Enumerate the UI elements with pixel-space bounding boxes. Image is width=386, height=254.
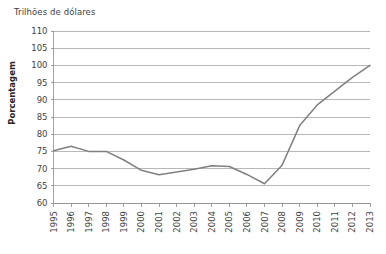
y-tick-label: 105: [31, 43, 47, 53]
x-tick-label: 2000: [136, 211, 146, 233]
y-tick-label: 80: [37, 129, 48, 139]
x-tick-label: 2002: [172, 211, 182, 233]
y-tick-label: 110: [31, 26, 47, 36]
x-tick-label: 2013: [365, 211, 375, 233]
data-series-line: [54, 65, 371, 183]
y-tick-label: 70: [37, 164, 48, 174]
x-tick-label: 2008: [277, 211, 287, 233]
y-tick-label: 60: [37, 198, 48, 208]
x-tick-label: 2007: [260, 211, 270, 233]
y-tick-marks: [51, 31, 54, 203]
x-tick-marks: [54, 203, 371, 207]
x-tick-label: 2001: [154, 211, 164, 233]
y-tick-label: 100: [31, 60, 47, 70]
gridlines: [54, 31, 371, 203]
y-tick-label: 65: [37, 181, 48, 191]
y-tick-label: 75: [37, 146, 48, 156]
x-tick-label: 1996: [66, 211, 76, 233]
x-tick-label: 2003: [189, 211, 199, 233]
x-tick-label: 2012: [347, 211, 357, 233]
x-tick-label: 2006: [242, 211, 252, 233]
y-tick-label: 85: [37, 112, 48, 122]
x-tick-labels: 1995199619971998199920002001200220032004…: [49, 211, 376, 233]
chart-container: Trilhões de dólares Porcentagem 11010510…: [0, 0, 386, 254]
x-tick-label: 1995: [49, 211, 59, 233]
x-tick-label: 2005: [224, 211, 234, 233]
x-tick-label: 2009: [295, 211, 305, 233]
x-tick-label: 2004: [207, 211, 217, 233]
x-tick-label: 2010: [312, 211, 322, 233]
x-tick-label: 1999: [119, 211, 129, 233]
plot-area: 1101051009590858075706560 19951996199719…: [0, 0, 386, 254]
x-tick-label: 2011: [330, 211, 340, 233]
y-tick-label: 90: [37, 95, 48, 105]
x-tick-label: 1998: [101, 211, 111, 233]
x-tick-label: 1997: [84, 211, 94, 233]
y-tick-label: 95: [37, 78, 48, 88]
y-tick-labels: 1101051009590858075706560: [31, 26, 47, 208]
